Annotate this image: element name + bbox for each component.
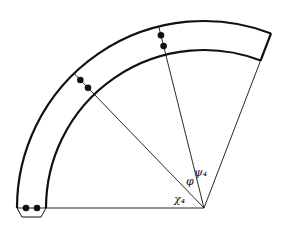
label-phi: φ: [186, 175, 194, 188]
dots-top-outer-dot: [158, 32, 165, 39]
dots-top-inner-dot: [160, 43, 167, 50]
psi-ray: [204, 33, 271, 208]
bottom-left-end-cap: [17, 208, 46, 217]
outer-arc: [17, 21, 271, 208]
dots-middle-inner-dot: [85, 85, 92, 92]
label-psi4: ψ₄: [194, 166, 207, 179]
inner-arc: [46, 50, 261, 208]
dots-middle-outer-dot: [77, 77, 84, 84]
dots-bottom-left-outer-dot: [23, 205, 30, 212]
annular-sector-diagram: φ ψ₄ χ₄: [0, 0, 291, 225]
label-chi4: χ₄: [173, 193, 185, 206]
dots-bottom-left-inner-dot: [34, 205, 41, 212]
chi-ray: [74, 73, 204, 208]
phi-ray: [159, 27, 204, 208]
